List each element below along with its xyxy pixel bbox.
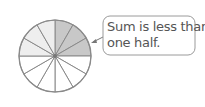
fraction-circle-diagram [0, 0, 205, 107]
callout-line-1: Sum is less than [107, 19, 197, 35]
callout-arrowhead-icon [91, 39, 97, 43]
circle-center [53, 54, 57, 58]
callout-line-2: one half. [107, 35, 197, 51]
callout-label: Sum is less than one half. [107, 19, 197, 51]
